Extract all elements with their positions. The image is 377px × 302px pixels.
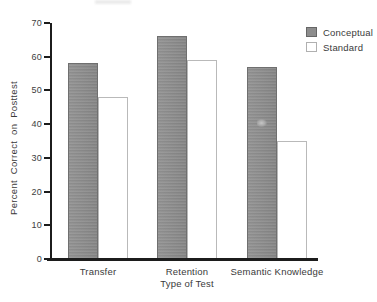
y-tick-label-60: 60 xyxy=(19,52,42,62)
legend: ConceptualStandard xyxy=(306,26,373,56)
bar-conceptual-retention xyxy=(157,36,187,259)
y-tick-label-70: 70 xyxy=(19,18,42,28)
x-tick-label-semantic-knowledge: Semantic Knowledge xyxy=(231,266,324,277)
bar-chart-figure: Percent Correct on Posttest Type of Test… xyxy=(0,0,377,302)
bar-standard-semantic-knowledge xyxy=(277,141,307,259)
legend-label-standard: Standard xyxy=(323,42,363,53)
scan-edge-artifact xyxy=(95,0,131,4)
x-tick-label-retention: Retention xyxy=(166,266,208,277)
legend-swatch-standard xyxy=(306,42,317,52)
y-tick-label-30: 30 xyxy=(19,153,42,163)
bar-conceptual-semantic-knowledge xyxy=(247,67,277,259)
x-axis-title: Type of Test xyxy=(160,278,213,289)
bar-standard-retention xyxy=(187,60,217,259)
legend-item-standard: Standard xyxy=(306,41,373,53)
legend-label-conceptual: Conceptual xyxy=(323,27,373,38)
x-tick-label-transfer: Transfer xyxy=(80,266,117,277)
y-tick-label-20: 20 xyxy=(19,187,42,197)
y-tick-label-0: 0 xyxy=(19,254,42,264)
x-axis-line xyxy=(47,258,318,261)
legend-swatch-conceptual xyxy=(306,27,317,37)
y-axis-line xyxy=(50,23,52,260)
bar-standard-transfer xyxy=(98,97,128,259)
legend-item-conceptual: Conceptual xyxy=(306,26,373,38)
bar-conceptual-transfer xyxy=(68,63,98,259)
scan-smudge-artifact xyxy=(257,119,267,127)
y-tick-label-40: 40 xyxy=(19,119,42,129)
plot-area xyxy=(50,23,317,259)
y-tick-label-50: 50 xyxy=(19,85,42,95)
y-tick-label-10: 10 xyxy=(19,220,42,230)
